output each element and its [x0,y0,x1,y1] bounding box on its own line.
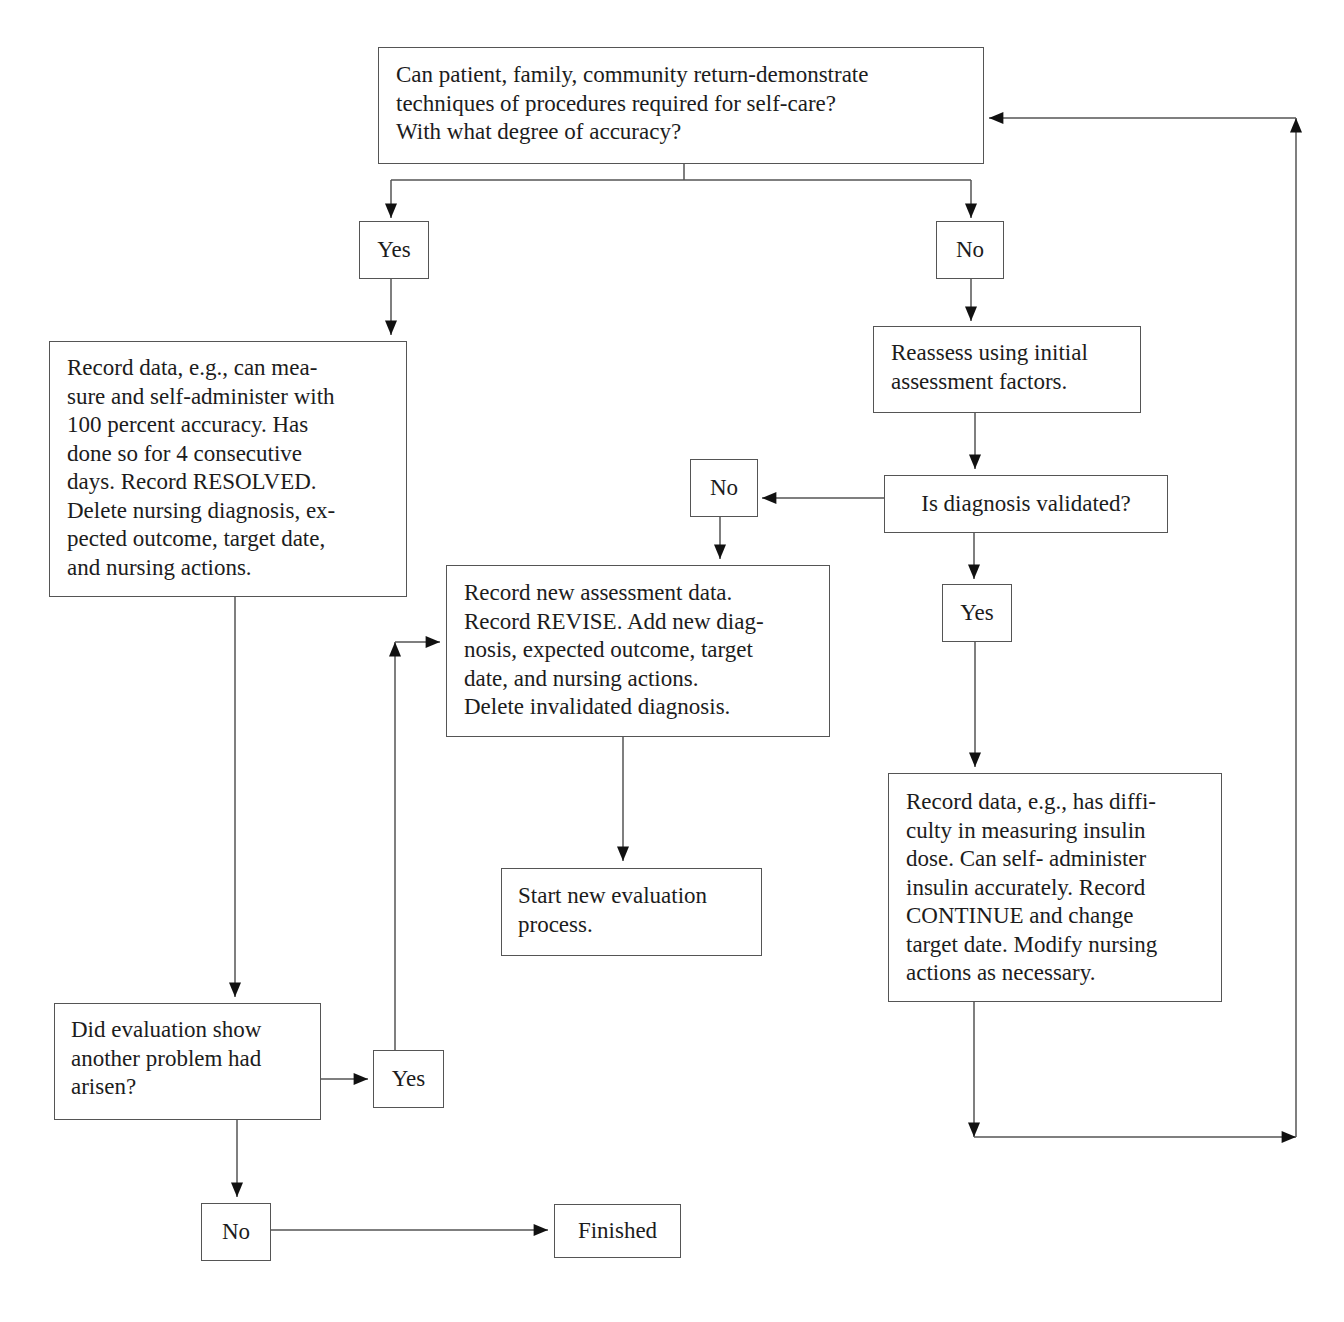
no-label-3: No [201,1203,271,1261]
revise-record-text: Record new assessment data. Record REVIS… [464,579,829,722]
yes-label-1: Yes [359,221,429,279]
start-question-box: Can patient, family, community return-de… [378,47,984,164]
another-problem-text: Did evaluation show another problem had … [71,1016,320,1102]
new-evaluation-text: Start new evaluation process. [518,882,761,939]
no-label-1: No [936,221,1004,279]
reassess-box: Reassess using initial assessment factor… [873,326,1141,413]
new-evaluation-box: Start new evaluation process. [501,868,762,956]
another-problem-box: Did evaluation show another problem had … [54,1003,321,1120]
revise-record-box: Record new assessment data. Record REVIS… [446,565,830,737]
resolved-record-text: Record data, e.g., can mea- sure and sel… [67,354,406,582]
yes-label-2: Yes [942,584,1012,642]
resolved-record-box: Record data, e.g., can mea- sure and sel… [49,341,407,597]
continue-record-text: Record data, e.g., has diffi- culty in m… [906,788,1221,988]
continue-record-box: Record data, e.g., has diffi- culty in m… [888,773,1222,1002]
finished-box: Finished [554,1204,681,1258]
diagnosis-validated-box: Is diagnosis validated? [884,475,1168,533]
no-label-2: No [690,459,758,517]
yes-label-3: Yes [373,1050,444,1108]
start-question-text: Can patient, family, community return-de… [396,61,983,147]
reassess-text: Reassess using initial assessment factor… [891,339,1140,396]
